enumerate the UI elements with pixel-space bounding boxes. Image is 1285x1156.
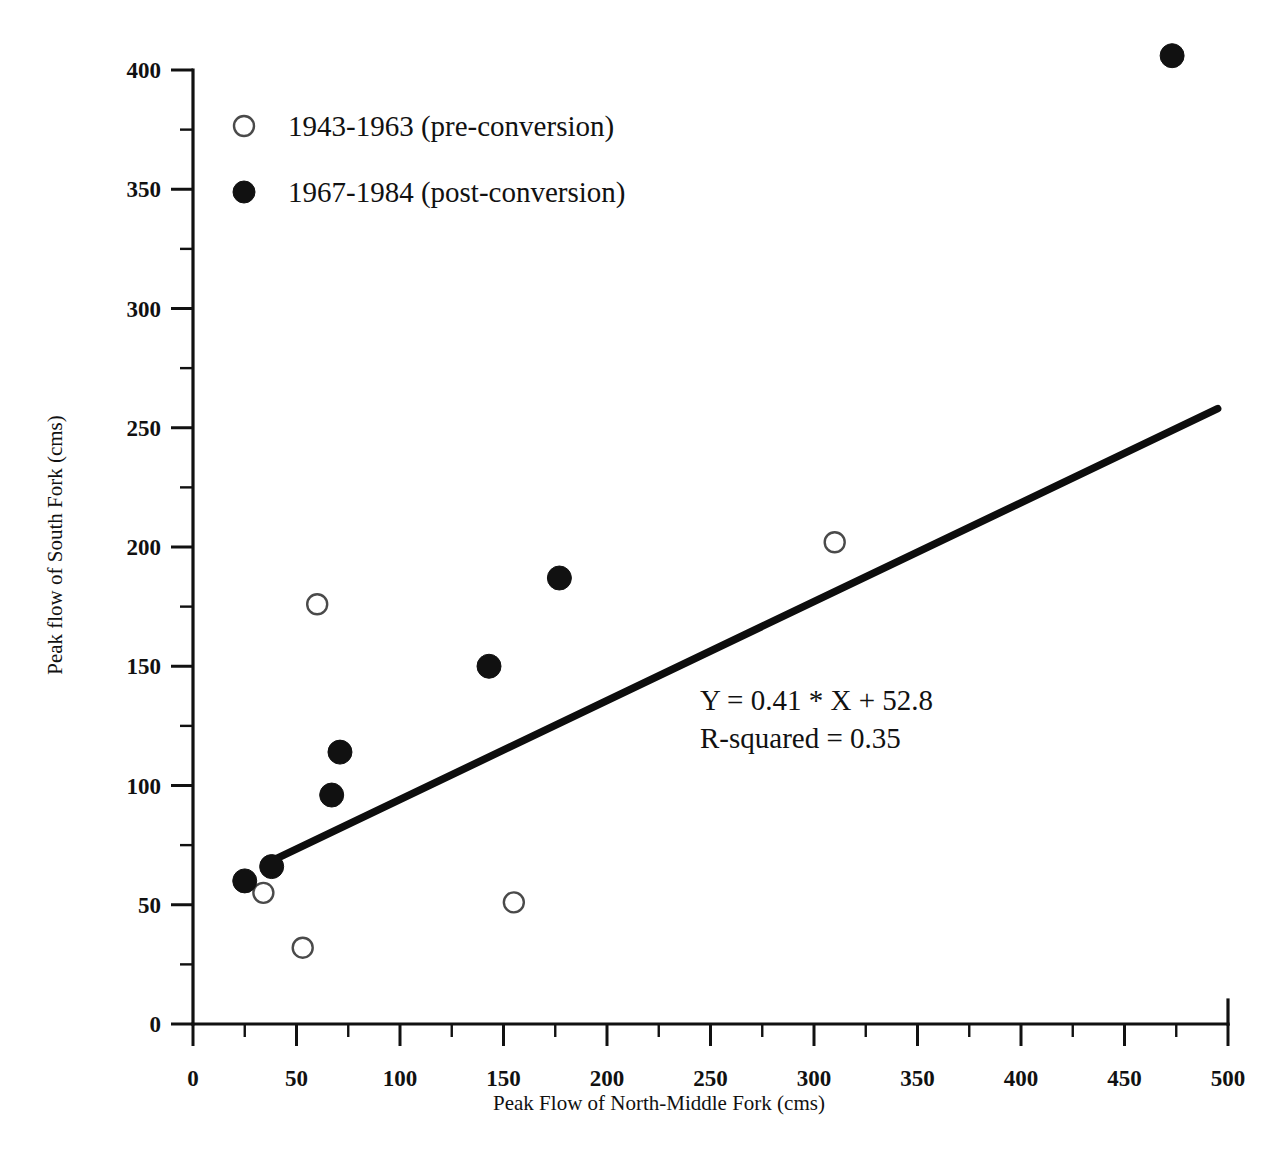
data-point-filled-circle	[328, 740, 352, 764]
data-point-open-circle	[504, 892, 524, 912]
x-tick-label-0: 0	[187, 1066, 199, 1091]
legend-label-post-conversion: 1967-1984 (post-conversion)	[288, 176, 625, 209]
y-tick-label-200: 200	[127, 535, 162, 560]
chart-legend: 1943-1963 (pre-conversion) 1967-1984 (po…	[233, 110, 625, 209]
x-tick-label-200: 200	[590, 1066, 625, 1091]
scatter-plot-figure: 050100150200250300350400 050100150200250…	[0, 0, 1285, 1156]
x-tick-label-300: 300	[797, 1066, 832, 1091]
x-axis-ticks	[193, 1024, 1228, 1046]
y-tick-label-300: 300	[127, 297, 162, 322]
data-point-filled-circle	[477, 654, 501, 678]
data-point-open-circle	[253, 883, 273, 903]
y-tick-label-0: 0	[150, 1012, 162, 1037]
legend-label-pre-conversion: 1943-1963 (pre-conversion)	[288, 110, 614, 143]
data-point-open-circle	[825, 532, 845, 552]
y-tick-label-250: 250	[127, 416, 162, 441]
x-tick-label-350: 350	[900, 1066, 935, 1091]
annotation-equation: Y = 0.41 * X + 52.8	[700, 684, 933, 716]
x-tick-label-450: 450	[1107, 1066, 1142, 1091]
data-point-filled-circle	[260, 855, 284, 879]
x-tick-label-100: 100	[383, 1066, 418, 1091]
data-point-open-circle	[307, 594, 327, 614]
y-tick-label-150: 150	[127, 654, 162, 679]
x-axis-title: Peak Flow of North-Middle Fork (cms)	[493, 1091, 825, 1115]
y-axis-tick-labels: 050100150200250300350400	[127, 58, 162, 1037]
x-tick-label-50: 50	[285, 1066, 308, 1091]
x-axis-tick-labels: 050100150200250300350400450500	[187, 1066, 1245, 1091]
y-tick-label-100: 100	[127, 774, 162, 799]
data-point-filled-circle	[233, 869, 257, 893]
regression-line	[270, 409, 1218, 862]
y-tick-label-400: 400	[127, 58, 162, 83]
plot-canvas: 050100150200250300350400 050100150200250…	[0, 0, 1285, 1156]
y-tick-label-350: 350	[127, 177, 162, 202]
series-post-conversion-points	[233, 44, 1184, 893]
data-point-open-circle	[293, 938, 313, 958]
data-point-filled-circle	[547, 566, 571, 590]
data-point-filled-circle	[1160, 44, 1184, 68]
x-tick-label-150: 150	[486, 1066, 521, 1091]
legend-marker-filled-circle-icon	[233, 181, 255, 203]
x-tick-label-500: 500	[1211, 1066, 1246, 1091]
annotation-r-squared: R-squared = 0.35	[700, 722, 901, 754]
data-point-filled-circle	[320, 783, 344, 807]
y-tick-label-50: 50	[138, 893, 161, 918]
y-axis-title: Peak flow of South Fork (cms)	[43, 415, 67, 675]
y-axis-ticks	[171, 70, 193, 1024]
legend-marker-open-circle-icon	[234, 116, 254, 136]
x-tick-label-250: 250	[693, 1066, 728, 1091]
x-tick-label-400: 400	[1004, 1066, 1039, 1091]
